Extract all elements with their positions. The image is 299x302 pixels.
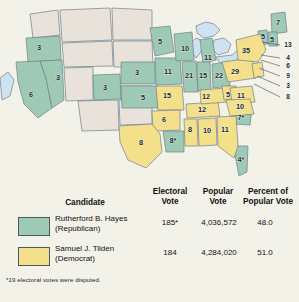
candidate-cell: Rutherford B. Hayes (Republican) <box>55 214 147 233</box>
candidate-name: Samuel J. Tilden <box>55 244 147 254</box>
state-vote-label-virginia: 11 <box>237 91 245 100</box>
candidate-party: (Democrat) <box>55 254 147 264</box>
state-vote-label-colorado: 3 <box>103 83 107 92</box>
state-vote-label-michigan: 11 <box>204 53 212 62</box>
state-vote-label-california: 6 <box>29 90 33 99</box>
header-electoral-vote: Electoral Vote <box>148 187 192 206</box>
state-vote-label-west-virginia: 5 <box>226 90 230 99</box>
state-vote-label-rhode-island: 6 <box>286 62 290 69</box>
header-percent-line2: Popular Vote <box>238 197 298 207</box>
state-vote-label-maine: 7 <box>276 18 280 27</box>
state-vote-label-wisconsin: 10 <box>181 44 189 53</box>
state-vote-label-ohio: 22 <box>215 71 223 80</box>
state-vote-label-iowa: 11 <box>164 67 172 76</box>
table-header-row: Candidate Electoral Vote Popular Vote Pe… <box>0 185 299 211</box>
legend-swatch-tilden <box>18 247 50 266</box>
state-vote-label-minnesota: 5 <box>158 37 162 46</box>
popular-vote-cell: 4,036,572 <box>196 218 242 227</box>
candidate-name: Rutherford B. Hayes <box>55 214 147 224</box>
state-vote-label-oregon: 3 <box>37 43 41 52</box>
state-vote-label-south-carolina: 7* <box>238 113 245 122</box>
state-vote-label-connecticut: 4 <box>286 54 290 61</box>
percent-cell: 51.0 <box>240 248 290 257</box>
state-vote-label-new-jersey: 9 <box>286 72 290 79</box>
state-vote-label-massachusetts: 13 <box>284 41 292 48</box>
state-vote-label-kansas: 5 <box>141 93 145 102</box>
state-vote-label-louisiana: 8* <box>170 136 177 145</box>
state-vote-label-illinois: 21 <box>185 71 193 80</box>
table-footnote: *19 electoral votes were disputed. <box>6 276 206 283</box>
header-popular-vote: Popular Vote <box>196 187 240 206</box>
state-vote-label-missouri: 15 <box>163 91 171 100</box>
popular-vote-cell: 4,284,020 <box>196 248 242 257</box>
state-vote-label-arkansas: 6 <box>162 115 166 124</box>
table-row: Rutherford B. Hayes (Republican) 185* 4,… <box>0 213 299 241</box>
state-vote-label-vermont: 5 <box>261 32 265 41</box>
state-vote-label-texas: 8 <box>139 138 143 147</box>
header-percent-line1: Percent of <box>238 187 298 197</box>
header-electoral-vote-line2: Vote <box>148 197 192 207</box>
state-vote-label-maryland: 8 <box>286 93 290 100</box>
state-vote-label-florida: 4* <box>238 155 245 164</box>
candidate-cell: Samuel J. Tilden (Democrat) <box>55 244 147 263</box>
header-popular-vote-line1: Popular <box>196 187 240 197</box>
state-vote-label-pennsylvania: 29 <box>231 67 239 76</box>
state-vote-label-nebraska: 3 <box>135 68 139 77</box>
state-vote-label-georgia: 11 <box>221 125 229 134</box>
table-row: Samuel J. Tilden (Democrat) 184 4,284,02… <box>0 243 299 271</box>
state-vote-label-north-carolina: 10 <box>236 102 244 111</box>
state-vote-label-alabama: 10 <box>203 126 211 135</box>
us-electoral-map: 363335511101121152215688*810114*7*101212… <box>0 0 299 185</box>
header-candidate: Candidate <box>46 198 124 208</box>
state-vote-label-kentucky: 12 <box>202 92 210 101</box>
candidate-party: (Republican) <box>55 224 147 234</box>
state-vote-label-new-york: 35 <box>242 46 250 55</box>
header-electoral-vote-line1: Electoral <box>148 187 192 197</box>
percent-cell: 48.0 <box>240 218 290 227</box>
state-vote-label-nevada: 3 <box>56 73 60 82</box>
legend-swatch-hayes <box>18 217 50 236</box>
state-vote-label-tennessee: 12 <box>198 105 206 114</box>
results-table: Candidate Electoral Vote Popular Vote Pe… <box>0 183 299 302</box>
header-percent: Percent of Popular Vote <box>238 187 298 206</box>
electoral-vote-cell: 185* <box>148 218 192 227</box>
state-vote-label-indiana: 15 <box>199 71 207 80</box>
state-vote-label-new-hampshire: 5 <box>270 35 274 44</box>
state-vote-label-delaware: 3 <box>286 82 290 89</box>
header-popular-vote-line2: Vote <box>196 197 240 207</box>
election-map-figure: 363335511101121152215688*810114*7*101212… <box>0 0 299 302</box>
state-vote-label-mississippi: 8 <box>188 125 192 134</box>
electoral-vote-cell: 184 <box>148 248 192 257</box>
